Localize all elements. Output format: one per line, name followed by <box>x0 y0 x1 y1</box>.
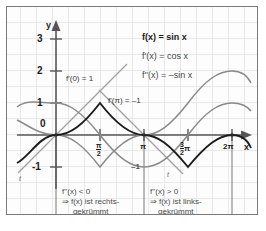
legend-item-f-double-prime: f''(x) = –sin x <box>142 71 192 80</box>
node-pi <box>142 133 146 137</box>
curvature-condition-right: f''(x) > 0 <box>150 187 178 196</box>
plot-svg <box>7 7 257 214</box>
curvature-note-left: f''(x) < 0 ⇒ f(x) ist rechts- gekrümmt <box>62 187 119 215</box>
y-axis-arrow <box>52 20 61 31</box>
fraction-pi-half: π 2 <box>96 142 101 157</box>
minus-one-under-pi: –1 <box>131 163 140 171</box>
curvature-implication-left: ⇒ f(x) ist rechts- <box>62 197 119 206</box>
y-tick-label-0: 0 <box>40 119 46 129</box>
y-axis-name: y <box>46 21 51 30</box>
minus-sin-curve <box>17 71 251 167</box>
curvature-note-right: f''(x) > 0 ⇒ f(x) ist links- gekrümmt <box>150 187 202 215</box>
x-tick-label-three-half-pi: 3 2 π <box>180 141 190 156</box>
figure-container: 3 2 1 0 -1 y x π 2 π 3 2 π 2π –1 <box>0 0 266 231</box>
node-twopi <box>230 133 234 137</box>
curvature-implication-right-2: gekrümmt <box>158 207 194 215</box>
curvature-implication-left-2: gekrümmt <box>73 207 109 215</box>
x-axis-name: x <box>244 143 249 152</box>
legend-item-f-prime: f'(x) = cos x <box>142 52 188 61</box>
x-tick-label-pi: π <box>140 143 146 151</box>
x-tick-label-pi-half: π 2 <box>96 141 101 157</box>
pi-suffix: π <box>184 145 190 153</box>
tangent-line-label-right: t <box>167 171 169 178</box>
figure-frame: 3 2 1 0 -1 y x π 2 π 3 2 π 2π –1 <box>6 6 258 215</box>
node-origin <box>54 133 58 137</box>
legend-item-f: f(x) = sin x <box>142 33 187 42</box>
curvature-implication-right: ⇒ f(x) ist links- <box>150 197 202 206</box>
y-tick-label-1: 1 <box>37 98 43 108</box>
tangent-label-f-prime-pi: f'(π) = –1 <box>108 97 141 105</box>
tangent-line-label-left: t <box>19 175 21 182</box>
y-tick-label-3: 3 <box>37 34 43 44</box>
tangent-label-f-prime-zero: f'(0) = 1 <box>66 75 93 83</box>
y-tick-label-minus-1: -1 <box>32 162 41 172</box>
x-tick-label-two-pi: 2π <box>223 143 234 151</box>
y-tick-label-2: 2 <box>37 66 43 76</box>
curvature-condition-left: f''(x) < 0 <box>62 187 90 196</box>
